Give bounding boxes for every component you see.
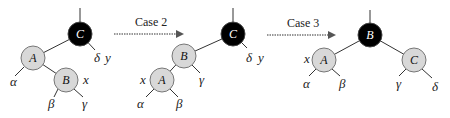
subtree-alpha: α	[10, 74, 18, 89]
annotation-y: y	[103, 50, 111, 65]
subtree-gamma: γ	[199, 72, 205, 87]
case-2-label: Case 2	[135, 15, 167, 29]
annotation-y: y	[256, 50, 264, 65]
annotation-x: x	[303, 51, 310, 66]
transition-arrow-case-2: Case 2	[114, 15, 184, 38]
subtree-delta: δ	[432, 79, 439, 94]
annotation-x: x	[139, 72, 146, 87]
subtree-alpha: α	[303, 76, 311, 91]
subtree-gamma: γ	[396, 76, 402, 91]
subtree-delta: δ	[94, 50, 101, 65]
node-c-label: C	[76, 27, 85, 41]
subtree-delta: δ	[246, 50, 253, 65]
subtree-beta: β	[47, 96, 55, 111]
rb-tree-diagram: Case 2 Case 3 C A B y x α β γ δ C B A y …	[0, 0, 450, 118]
tree-3: B A C x α β γ δ	[303, 23, 439, 94]
subtree-beta: β	[338, 76, 346, 91]
node-b-label: B	[62, 73, 70, 87]
case-3-label: Case 3	[287, 16, 319, 30]
node-b-label: B	[366, 28, 374, 42]
tree-1: C A B y x α β γ δ	[10, 22, 111, 111]
subtree-beta: β	[175, 96, 183, 111]
node-a-label: A	[28, 51, 37, 65]
annotation-x: x	[82, 72, 89, 87]
node-a-label: A	[157, 73, 166, 87]
subtree-alpha: α	[137, 96, 145, 111]
node-b-label: B	[180, 49, 188, 63]
node-c-label: C	[410, 53, 419, 67]
subtree-gamma: γ	[82, 96, 88, 111]
diagram-canvas: Case 2 Case 3 C A B y x α β γ δ C B A y …	[0, 0, 450, 118]
node-c-label: C	[229, 27, 238, 41]
tree-2: C B A y x α β γ δ	[137, 22, 264, 111]
transition-arrow-case-3: Case 3	[267, 16, 336, 39]
node-a-label: A	[319, 53, 328, 67]
